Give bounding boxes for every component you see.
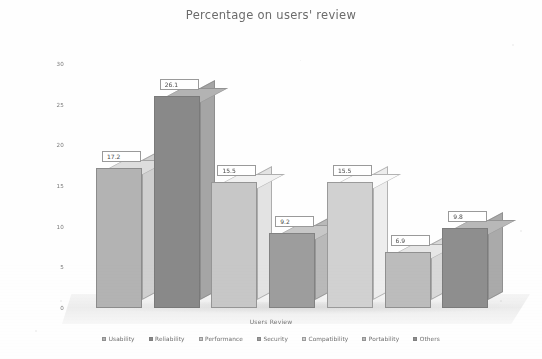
legend-item-portability[interactable]: Portability: [362, 336, 399, 342]
paper-speck: [35, 330, 37, 332]
legend-label: Usability: [109, 336, 135, 342]
paper-speck: [500, 300, 502, 302]
bar-performance[interactable]: 15.5: [211, 182, 257, 308]
legend-label: Portability: [369, 336, 399, 342]
bar-reliability[interactable]: 26.1: [154, 96, 200, 308]
y-axis-tick-label: 10: [56, 224, 64, 230]
legend-label: Security: [263, 336, 288, 342]
legend-label: Reliability: [155, 336, 184, 342]
bar-value-label: 9.2: [275, 216, 314, 227]
bar-slot: 26.1: [154, 64, 212, 308]
legend-swatch-icon: [302, 337, 306, 341]
legend-item-security[interactable]: Security: [257, 336, 288, 342]
paper-speck: [300, 60, 301, 61]
bar-slot: 9.2: [269, 64, 327, 308]
bar-security[interactable]: 9.2: [269, 233, 315, 308]
bar-value-label: 9.8: [448, 211, 487, 222]
y-axis-tick-label: 15: [56, 183, 64, 189]
bar-value-label: 6.9: [391, 235, 430, 246]
bar-front-face: [211, 182, 257, 308]
bar-portability[interactable]: 6.9: [385, 252, 431, 308]
legend-item-usability[interactable]: Usability: [102, 336, 134, 342]
bar-series: 17.226.115.59.215.56.99.8: [96, 64, 500, 308]
legend-label: Others: [420, 336, 440, 342]
legend-swatch-icon: [257, 337, 261, 341]
chart-container: Percentage on users' review 051015202530…: [0, 0, 542, 359]
bar-others[interactable]: 9.8: [442, 228, 488, 308]
bar-slot: 15.5: [211, 64, 269, 308]
bar-value-label: 26.1: [160, 79, 199, 90]
y-axis-tick-label: 30: [56, 61, 64, 67]
chart-legend: UsabilityReliabilityPerformanceSecurityC…: [0, 336, 542, 342]
y-axis-tick-label: 20: [56, 142, 64, 148]
legend-swatch-icon: [102, 337, 106, 341]
bar-value-label: 15.5: [217, 165, 256, 176]
legend-swatch-icon: [362, 337, 366, 341]
bar-front-face: [96, 168, 142, 308]
y-axis-tick-label: 0: [60, 305, 64, 311]
bar-slot: 17.2: [96, 64, 154, 308]
bar-front-face: [269, 233, 315, 308]
bar-usability[interactable]: 17.2: [96, 168, 142, 308]
legend-swatch-icon: [413, 337, 417, 341]
legend-item-reliability[interactable]: Reliability: [149, 336, 185, 342]
legend-label: Performance: [205, 336, 243, 342]
paper-speck: [512, 44, 514, 46]
bar-slot: 9.8: [442, 64, 500, 308]
x-axis-title: Users Review: [0, 318, 542, 325]
bar-slot: 15.5: [327, 64, 385, 308]
paper-speck: [60, 300, 62, 302]
legend-label: Compatibility: [308, 336, 348, 342]
legend-item-performance[interactable]: Performance: [199, 336, 243, 342]
bar-front-face: [442, 228, 488, 308]
plot-area: 051015202530 17.226.115.59.215.56.99.8: [70, 64, 522, 308]
bar-value-label: 17.2: [102, 151, 141, 162]
bar-front-face: [327, 182, 373, 308]
bar-compatibility[interactable]: 15.5: [327, 182, 373, 308]
bar-front-face: [385, 252, 431, 308]
bar-front-face: [154, 96, 200, 308]
y-axis-tick-label: 25: [56, 102, 64, 108]
bar-slot: 6.9: [385, 64, 443, 308]
legend-swatch-icon: [149, 337, 153, 341]
paper-speck: [520, 230, 522, 232]
legend-item-others[interactable]: Others: [413, 336, 440, 342]
legend-item-compatibility[interactable]: Compatibility: [302, 336, 348, 342]
y-axis-tick-label: 5: [60, 264, 64, 270]
legend-swatch-icon: [199, 337, 203, 341]
bar-value-label: 15.5: [333, 165, 372, 176]
chart-title: Percentage on users' review: [0, 8, 542, 22]
